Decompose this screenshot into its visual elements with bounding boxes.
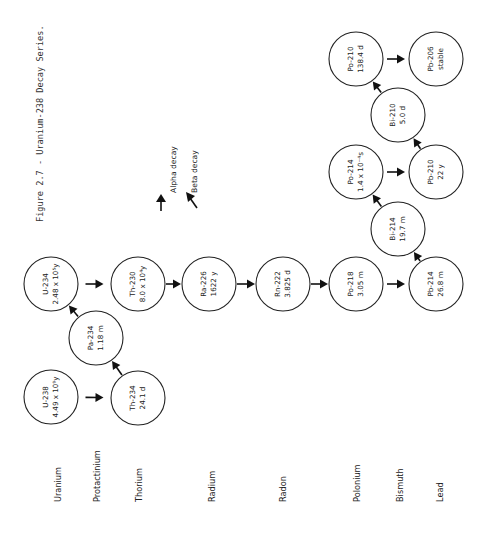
nuclide-half-life: 22 y xyxy=(436,163,445,179)
beta-decay-arrow-icon xyxy=(414,252,422,261)
nuclide-node: Po-2141.4 x 10⁻⁴s xyxy=(329,145,383,199)
nuclide-node: Th-23424.1 d xyxy=(111,371,165,425)
nuclide-node: Bi-2105.0 d xyxy=(371,88,425,142)
nuclide-label: Ra-226 xyxy=(199,271,208,297)
element-label: Radon xyxy=(278,476,288,502)
nuclide-half-life: 1622 y xyxy=(209,271,218,297)
nuclide-label: Po-218 xyxy=(346,271,355,296)
beta-decay-arrow-icon xyxy=(373,195,382,207)
element-label: Bismuth xyxy=(395,468,405,502)
element-label: Thorium xyxy=(134,468,144,503)
alpha-decay-arrow-icon xyxy=(387,168,405,177)
arrow-beta-icon xyxy=(186,192,197,208)
nuclide-node: U-2384.49 x 10⁹y xyxy=(24,370,78,424)
nuclide-node: Po-2183.05 m xyxy=(329,257,383,311)
alpha-decay-arrow-icon xyxy=(86,280,104,289)
nuclide-node: Pb-206stable xyxy=(409,32,463,86)
nuclide-label: Th-234 xyxy=(128,385,137,412)
nuclide-node: Po-210138.4 d xyxy=(329,32,383,86)
figure-caption: Figure 2.7 - Uranium-238 Decay Series. xyxy=(35,25,45,222)
arrow-alpha-icon xyxy=(156,194,166,211)
nuclide-node: Bi-21419.7 m xyxy=(371,202,425,256)
nuclide-node: Pa-2341.18 m xyxy=(69,311,123,365)
nuclide-half-life: 138.4 d xyxy=(356,45,365,72)
beta-decay-arrow-icon xyxy=(112,361,122,375)
nuclide-half-life: 24.1 d xyxy=(138,387,147,410)
nuclide-label: U-238 xyxy=(41,386,50,408)
nuclide-label: Th-230 xyxy=(128,271,137,298)
alpha-decay-arrow-icon xyxy=(86,393,104,402)
nuclide-label: Pb-206 xyxy=(426,46,435,72)
alpha-decay-arrow-icon xyxy=(387,55,405,64)
nuclide-node: U-2342.48 x 10⁵y xyxy=(24,257,78,311)
nuclide-half-life: 1.4 x 10⁻⁴s xyxy=(356,152,365,192)
element-label: Uranium xyxy=(53,467,63,502)
legend-beta-label: Beta decay xyxy=(190,150,199,193)
beta-decay-arrow-icon xyxy=(69,306,78,317)
nuclide-half-life: 8.0 x 10⁴y xyxy=(138,265,147,302)
nuclide-half-life: 4.49 x 10⁹y xyxy=(51,376,60,418)
element-label: Polonium xyxy=(352,464,362,502)
alpha-decay-arrow-icon xyxy=(237,280,255,289)
nuclide-node: Ra-2261622 y xyxy=(182,257,236,311)
nuclide-label: Po-210 xyxy=(346,46,355,71)
legend: Alpha decay Beta decay xyxy=(156,146,199,211)
nuclide-label: Pa-234 xyxy=(86,325,95,350)
decay-series-diagram: U-2384.49 x 10⁹yTh-23424.1 dPa-2341.18 m… xyxy=(0,0,486,534)
element-label: Protactinium xyxy=(92,450,102,502)
element-label: Radium xyxy=(207,471,217,502)
nuclide-node: Pb-21426.8 m xyxy=(409,257,463,311)
nuclide-nodes: U-2384.49 x 10⁹yTh-23424.1 dPa-2341.18 m… xyxy=(24,32,463,425)
nuclide-half-life: 3.825 d xyxy=(283,270,292,297)
element-label: Lead xyxy=(435,482,445,502)
nuclide-label: Pb-214 xyxy=(426,271,435,297)
nuclide-node: Rn-2223.825 d xyxy=(256,257,310,311)
nuclide-half-life: 19.7 m xyxy=(398,216,407,241)
element-labels: UraniumProtactiniumThoriumRadiumRadonPol… xyxy=(53,450,445,503)
alpha-decay-arrow-icon xyxy=(387,280,405,289)
decay-arrows xyxy=(69,55,422,403)
nuclide-half-life: stable xyxy=(436,47,445,70)
nuclide-label: Po-214 xyxy=(346,159,355,184)
nuclide-label: Bi-214 xyxy=(388,217,397,241)
nuclide-label: U-234 xyxy=(41,273,50,295)
nuclide-node: Pb-21022 y xyxy=(409,145,463,199)
beta-decay-arrow-icon xyxy=(373,81,381,92)
legend-alpha-label: Alpha decay xyxy=(169,146,178,193)
alpha-decay-arrow-icon xyxy=(311,280,328,289)
nuclide-node: Th-2308.0 x 10⁴y xyxy=(111,257,165,311)
nuclide-label: Bi-210 xyxy=(388,103,397,127)
nuclide-label: Pb-210 xyxy=(426,159,435,185)
nuclide-half-life: 26.8 m xyxy=(436,271,445,296)
nuclide-label: Rn-222 xyxy=(273,271,282,297)
nuclide-half-life: 2.48 x 10⁵y xyxy=(51,263,60,305)
nuclide-half-life: 3.05 m xyxy=(356,271,365,296)
nuclide-half-life: 1.18 m xyxy=(96,325,105,350)
beta-decay-arrow-icon xyxy=(414,138,422,148)
nuclide-half-life: 5.0 d xyxy=(398,106,407,124)
alpha-decay-arrow-icon xyxy=(166,280,181,289)
